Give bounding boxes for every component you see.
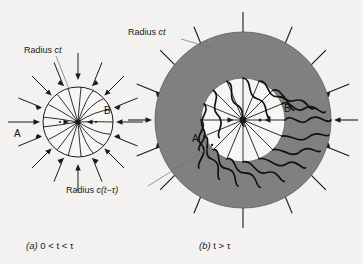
panel-b-label-A: A	[192, 133, 199, 144]
panel-a-label-A: A	[14, 128, 21, 139]
panel-a: A B Radius ct	[8, 45, 143, 191]
field-line-diagram: A B Radius ct	[0, 0, 363, 264]
panel-a-charge-point	[75, 119, 80, 124]
panel-b-radius-inner-label: Radius c(t−τ)	[66, 185, 118, 195]
panel-b-label-B: B	[284, 103, 291, 114]
panel-a-label-B: B	[104, 105, 111, 116]
panel-b-charge-point	[240, 117, 247, 124]
panel-b-caption: (b) t > τ	[199, 240, 231, 251]
panel-a-caption: (a) 0 < t < τ	[26, 240, 74, 251]
panel-b-radius-ct-label: Radius ct	[128, 27, 166, 37]
panel-a-radius-ct-label: Radius ct	[24, 45, 62, 55]
figure-canvas: A B Radius ct	[0, 0, 363, 264]
